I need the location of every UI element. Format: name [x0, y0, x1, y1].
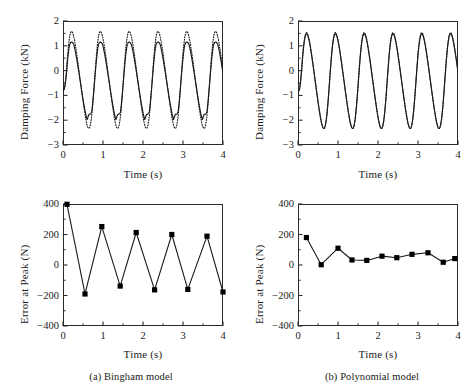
x-tick-label: 4	[220, 150, 225, 161]
data-point-marker	[304, 235, 309, 240]
axis-title-x-bingham-force: Time (s)	[124, 168, 163, 180]
x-tick-label: 3	[180, 150, 185, 161]
series-error-line	[306, 238, 454, 265]
x-tick-label: 0	[295, 331, 300, 342]
y-tick-label: 0	[33, 65, 59, 76]
data-point-marker	[134, 230, 139, 235]
x-tick-label: 1	[100, 150, 105, 161]
x-tick-label: 1	[100, 331, 105, 342]
data-point-marker	[185, 287, 190, 292]
y-tick-label: −1	[33, 90, 59, 101]
x-tick-label: 3	[415, 331, 420, 342]
caption-bingham: (a) Bingham model	[89, 371, 172, 382]
figure-root: Damping Force (kN) Time (s) 01234−3−2−10…	[0, 0, 473, 391]
data-point-marker	[364, 258, 369, 263]
x-tick-label: 4	[455, 150, 460, 161]
x-tick-label: 0	[295, 150, 300, 161]
x-tick-label: 2	[140, 331, 145, 342]
y-tick-label: 200	[33, 229, 59, 240]
y-tick-label: −400	[268, 321, 294, 332]
data-point-marker	[452, 256, 457, 261]
y-tick-label: 400	[33, 199, 59, 210]
x-tick-label: 1	[335, 150, 340, 161]
y-tick-label: 0	[33, 260, 59, 271]
x-tick-label: 1	[335, 331, 340, 342]
y-tick-label: 0	[268, 260, 294, 271]
axis-title-y-bingham-force: Damping Force (kN)	[18, 44, 30, 140]
axis-title-x-bingham-error: Time (s)	[124, 348, 163, 360]
data-point-marker	[220, 289, 225, 294]
data-point-marker	[152, 287, 157, 292]
y-tick-label: −2	[33, 115, 59, 126]
data-point-marker	[319, 262, 324, 267]
axis-title-y-polynomial-force: Damping Force (kN)	[253, 44, 265, 140]
data-point-marker	[441, 260, 446, 265]
x-tick-label: 4	[220, 331, 225, 342]
data-point-marker	[425, 250, 430, 255]
data-point-marker	[64, 202, 69, 207]
data-point-marker	[349, 257, 354, 262]
data-point-marker	[379, 254, 384, 259]
caption-polynomial: (b) Polynomial model	[325, 371, 419, 382]
y-tick-label: 1	[268, 41, 294, 52]
x-tick-label: 0	[60, 331, 65, 342]
x-tick-label: 0	[60, 150, 65, 161]
y-tick-label: 400	[268, 199, 294, 210]
x-tick-label: 2	[375, 331, 380, 342]
y-tick-label: 1	[33, 41, 59, 52]
series-model-curve	[298, 34, 458, 129]
data-point-marker	[394, 255, 399, 260]
panel-polynomial-force: Damping Force (kN) Time (s) 01234−3−2−10…	[237, 0, 473, 196]
x-tick-label: 3	[415, 150, 420, 161]
data-point-marker	[99, 224, 104, 229]
y-tick-label: −2	[268, 115, 294, 126]
x-tick-label: 2	[375, 150, 380, 161]
y-tick-label: 2	[33, 16, 59, 27]
y-tick-label: −3	[268, 140, 294, 151]
panel-bingham-error: Error at Peak (N) Time (s) (a) Bingham m…	[0, 196, 237, 391]
y-tick-label: −1	[268, 90, 294, 101]
series-error-line	[67, 204, 223, 294]
data-point-marker	[82, 291, 87, 296]
data-point-marker	[169, 232, 174, 237]
axis-title-y-polynomial-error: Error at Peak (N)	[253, 245, 265, 324]
x-tick-label: 2	[140, 150, 145, 161]
axis-title-y-bingham-error: Error at Peak (N)	[18, 245, 30, 324]
data-point-marker	[409, 252, 414, 257]
panel-polynomial-error: Error at Peak (N) Time (s) (b) Polynomia…	[237, 196, 473, 391]
y-tick-label: 0	[268, 65, 294, 76]
y-tick-label: 200	[268, 229, 294, 240]
x-tick-label: 4	[455, 331, 460, 342]
y-tick-label: −200	[33, 290, 59, 301]
x-tick-label: 3	[180, 331, 185, 342]
panel-bingham-force: Damping Force (kN) Time (s) 01234−3−2−10…	[0, 0, 237, 196]
y-tick-label: −200	[268, 290, 294, 301]
data-point-marker	[204, 234, 209, 239]
data-point-marker	[118, 283, 123, 288]
y-tick-label: −400	[33, 321, 59, 332]
y-tick-label: 2	[268, 16, 294, 27]
axis-title-x-polynomial-error: Time (s)	[359, 348, 398, 360]
axis-title-x-polynomial-force: Time (s)	[359, 168, 398, 180]
data-point-marker	[335, 246, 340, 251]
y-tick-label: −3	[33, 140, 59, 151]
